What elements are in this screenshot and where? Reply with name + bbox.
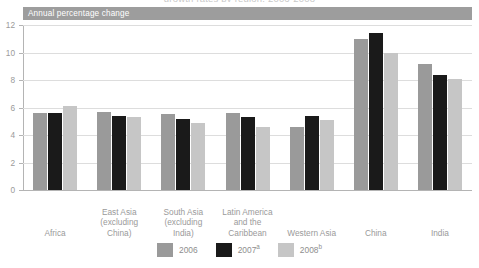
y-tick-label-2: 2 [0, 159, 15, 167]
chart-subtitle-band: Annual percentage change [23, 7, 472, 20]
category-label: China [344, 228, 408, 239]
category-label-line: East Asia [87, 207, 151, 218]
legend-footnote-marker: b [318, 243, 322, 250]
bar [290, 127, 304, 190]
bar [384, 53, 398, 191]
category-label-line: (excluding [151, 217, 215, 228]
category-label: Latin Americaand theCaribbean [215, 207, 279, 239]
plot-area [23, 25, 472, 190]
category-label: South Asia(excludingIndia) [151, 207, 215, 239]
bar [161, 114, 175, 190]
bar [256, 127, 270, 190]
category-label-line: Western Asia [280, 228, 344, 239]
category-label-line: Caribbean [215, 228, 279, 239]
category-label-line: India) [151, 228, 215, 239]
bar [33, 113, 47, 190]
category-label-line: China [344, 228, 408, 239]
bar [176, 119, 190, 191]
bar [433, 75, 447, 191]
bar [127, 117, 141, 190]
y-tick-label-6: 6 [0, 104, 15, 112]
bar [226, 113, 240, 190]
legend-label: 2006 [179, 246, 198, 254]
bar [320, 120, 334, 190]
category-label: Africa [23, 228, 87, 239]
bar [418, 64, 432, 191]
bars-layer [23, 25, 472, 190]
bar-group [290, 25, 334, 190]
legend-swatch-icon [278, 243, 294, 257]
bar-group [418, 25, 462, 190]
chart-legend: 20062007a2008b [0, 243, 479, 257]
legend-item-2007[interactable]: 2007a [216, 243, 260, 257]
category-label-line: South Asia [151, 207, 215, 218]
legend-label: 2007a [238, 246, 260, 254]
legend-swatch-icon [157, 243, 173, 257]
legend-label: 2008b [300, 246, 322, 254]
bar [97, 112, 111, 190]
legend-swatch-icon [216, 243, 232, 257]
bar-group [97, 25, 141, 190]
y-tick-label-8: 8 [0, 76, 15, 84]
category-label-line: Latin America [215, 207, 279, 218]
gridline-0 [23, 190, 472, 191]
bar-chart-figure: growth rates by region, 2006-2008 Annual… [0, 0, 479, 268]
bar-group [161, 25, 205, 190]
bar [63, 106, 77, 190]
bar-group [226, 25, 270, 190]
category-label-line: (excluding [87, 217, 151, 228]
bar [305, 116, 319, 190]
y-tick-label-0: 0 [0, 186, 15, 194]
legend-item-2008[interactable]: 2008b [278, 243, 322, 257]
legend-footnote-marker: a [256, 243, 260, 250]
bar [369, 33, 383, 190]
clipped-title-text: growth rates by region, 2006-2008 [0, 0, 479, 2]
bar [241, 117, 255, 190]
bar [191, 123, 205, 190]
category-label-line: China) [87, 228, 151, 239]
bar-group [354, 25, 398, 190]
category-label: Western Asia [280, 228, 344, 239]
bar [448, 79, 462, 190]
bar [48, 113, 62, 190]
category-label-line: India [408, 228, 472, 239]
category-label-line: Africa [23, 228, 87, 239]
bar [354, 39, 368, 190]
bar-group [33, 25, 77, 190]
y-tick-label-10: 10 [0, 49, 15, 57]
category-label: India [408, 228, 472, 239]
y-tick-0 [19, 190, 23, 191]
category-label-line: and the [215, 217, 279, 228]
x-axis-category-labels: AfricaEast Asia(excludingChina)South Asi… [23, 194, 472, 238]
y-tick-label-4: 4 [0, 131, 15, 139]
y-tick-label-12: 12 [0, 21, 15, 29]
category-label: East Asia(excludingChina) [87, 207, 151, 239]
legend-item-2006[interactable]: 2006 [157, 243, 198, 257]
bar [112, 116, 126, 190]
